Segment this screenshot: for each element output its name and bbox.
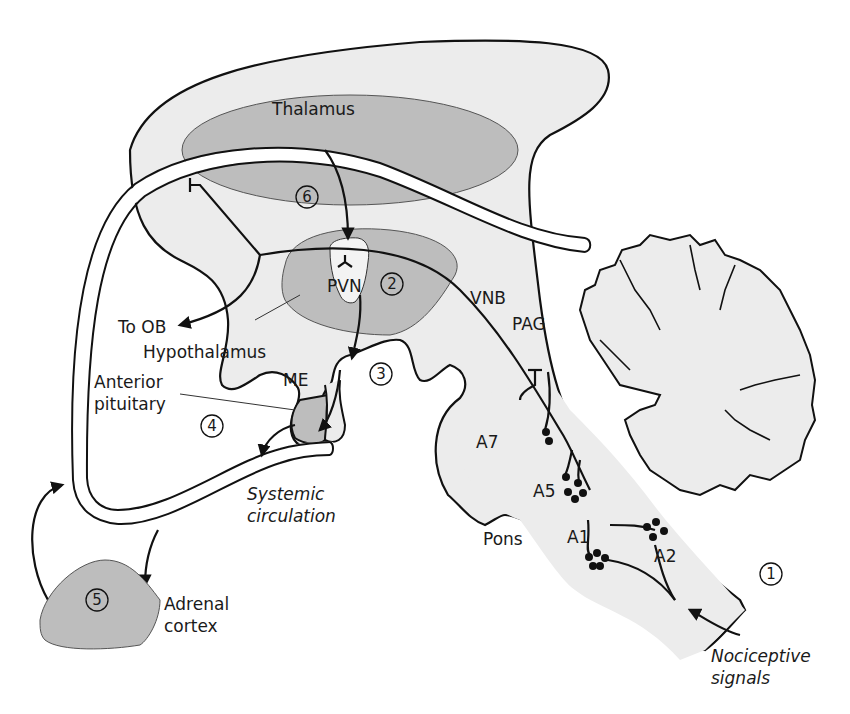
svg-text:3: 3 — [376, 365, 386, 383]
label-to-ob: To OB — [117, 317, 166, 337]
label-pons: Pons — [483, 529, 523, 549]
label-anterior-pituitary-2: pituitary — [94, 394, 166, 414]
svg-text:1: 1 — [766, 565, 776, 583]
label-anterior-pituitary-1: Anterior — [94, 372, 163, 392]
label-pag: PAG — [512, 314, 546, 334]
label-nociceptive-2: signals — [711, 668, 770, 688]
label-adrenal-2: cortex — [164, 616, 218, 636]
label-a5: A5 — [533, 481, 555, 501]
svg-text:2: 2 — [387, 275, 397, 293]
label-a7: A7 — [476, 432, 498, 452]
hpa-axis-diagram: Thalamus PVN Hypothalamus To OB ME Anter… — [0, 0, 850, 714]
circulation-to-adrenal-path — [145, 530, 158, 585]
cerebellum — [580, 235, 815, 495]
step-marker-3: 3 — [370, 363, 392, 385]
label-adrenal-1: Adrenal — [164, 594, 229, 614]
label-pvn: PVN — [327, 276, 362, 296]
label-a1: A1 — [567, 527, 589, 547]
svg-text:5: 5 — [92, 591, 102, 609]
adrenal-feedback-path — [32, 485, 62, 600]
label-vnb: VNB — [470, 288, 506, 308]
posterior-pituitary — [325, 380, 345, 442]
label-me: ME — [283, 370, 308, 390]
label-systemic-1: Systemic — [247, 484, 325, 504]
label-a2: A2 — [654, 546, 676, 566]
step-marker-4: 4 — [201, 415, 223, 437]
svg-text:6: 6 — [302, 188, 312, 206]
label-systemic-2: circulation — [247, 506, 336, 526]
label-thalamus: Thalamus — [271, 99, 355, 119]
step-marker-1: 1 — [760, 563, 782, 585]
svg-text:4: 4 — [207, 417, 217, 435]
label-hypothalamus: Hypothalamus — [143, 342, 266, 362]
label-nociceptive-1: Nociceptive — [711, 646, 811, 666]
